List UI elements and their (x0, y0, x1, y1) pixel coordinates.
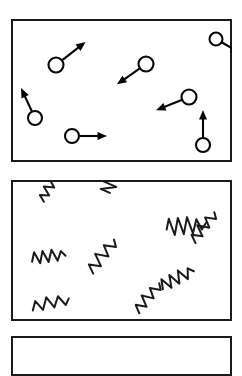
panel-third-canvas (11, 336, 232, 376)
panel-third (11, 336, 232, 376)
panel-particles (11, 19, 232, 162)
particle-circle-icon (196, 138, 210, 152)
panel-border (12, 337, 231, 375)
particle-circle-icon (28, 111, 42, 125)
panel-particles-canvas (11, 19, 232, 162)
particle-circle-icon (49, 58, 64, 73)
panel-waves (11, 180, 232, 321)
panel-waves-canvas (11, 180, 232, 321)
particle-circle-icon (182, 90, 197, 105)
particle-circle-icon (210, 33, 223, 46)
particle-circle-icon (139, 57, 154, 72)
particle-circle-icon (65, 129, 79, 143)
